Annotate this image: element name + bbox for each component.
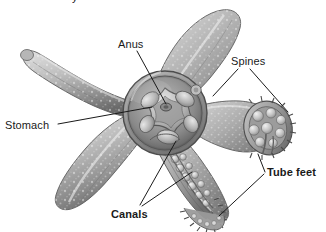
starfish-illustration (0, 0, 326, 232)
label-canals: Canals (111, 208, 148, 220)
starfish-anatomy-figure: y (0, 0, 326, 232)
label-tube-feet: Tube feet (267, 166, 316, 178)
label-stomach: Stomach (5, 119, 49, 131)
central-disc (123, 71, 207, 155)
starfish-body (21, 10, 299, 232)
leader-spines-a (213, 69, 238, 96)
leader-tubefeet-b (219, 174, 264, 216)
label-anus: Anus (118, 38, 143, 50)
label-spines: Spines (231, 55, 265, 67)
arm-upper-left (21, 50, 141, 120)
